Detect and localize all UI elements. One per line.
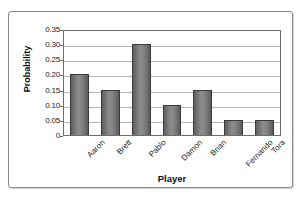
plot-area bbox=[63, 30, 281, 136]
x-axis-title: Player bbox=[63, 173, 281, 184]
bar bbox=[101, 90, 120, 135]
y-axis-tick-mark bbox=[60, 106, 63, 107]
y-axis-tick-label: 0.35 bbox=[29, 26, 60, 34]
bar bbox=[70, 74, 89, 135]
bar-slot bbox=[95, 31, 126, 135]
x-axis-tick-label: Damon bbox=[180, 138, 205, 163]
y-axis-tick-mark bbox=[60, 45, 63, 46]
y-axis-tick-labels: 0.350.300.250.200.150.100.050 bbox=[29, 30, 60, 136]
y-axis-tick-label: 0.25 bbox=[29, 56, 60, 64]
bar-slot bbox=[187, 31, 218, 135]
bar bbox=[193, 90, 212, 135]
bar-slot bbox=[126, 31, 157, 135]
y-axis-tick-mark bbox=[60, 91, 63, 92]
x-axis-tick-label: Aaron bbox=[85, 138, 106, 159]
y-axis-tick-label: 0.30 bbox=[29, 41, 60, 49]
y-axis-tick-label: 0.20 bbox=[29, 71, 60, 79]
x-axis-tick-label: Brian bbox=[209, 138, 229, 158]
y-axis-tick-mark bbox=[60, 121, 63, 122]
bar bbox=[255, 120, 274, 135]
x-axis-tick-label: Fernando bbox=[244, 138, 275, 169]
chart-figure: Probability 0.350.300.250.200.150.100.05… bbox=[0, 0, 302, 197]
bar-slot bbox=[157, 31, 188, 135]
y-axis-tick-mark bbox=[60, 60, 63, 61]
bar-slot bbox=[249, 31, 280, 135]
bar bbox=[224, 120, 243, 135]
x-axis-tick-label: Pablo bbox=[147, 138, 168, 159]
y-axis-tick-label: 0.10 bbox=[29, 102, 60, 110]
y-axis-tick-mark bbox=[60, 75, 63, 76]
y-axis-tick-label: 0 bbox=[29, 132, 60, 140]
bar bbox=[132, 44, 151, 135]
x-axis-tick-labels: AaronBrettPabloDamonBrianFernandoTora bbox=[63, 136, 281, 174]
bar-slot bbox=[64, 31, 95, 135]
y-axis-tick-mark bbox=[60, 30, 63, 31]
bar-series bbox=[64, 31, 280, 135]
bar bbox=[163, 105, 182, 135]
y-axis-tick-label: 0.05 bbox=[29, 117, 60, 125]
x-axis-tick-label: Brett bbox=[115, 138, 133, 156]
y-axis-tick-mark bbox=[60, 136, 63, 137]
y-axis-tick-label: 0.15 bbox=[29, 87, 60, 95]
figure-frame: Probability 0.350.300.250.200.150.100.05… bbox=[8, 11, 293, 188]
bar-slot bbox=[218, 31, 249, 135]
x-axis-tick-label: Tora bbox=[270, 138, 287, 155]
